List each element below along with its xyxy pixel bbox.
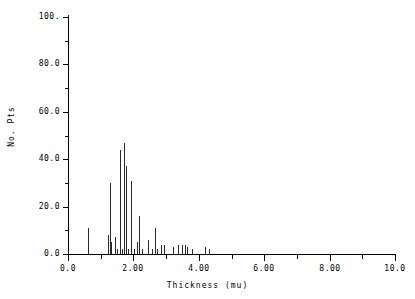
data-spike: [124, 143, 125, 254]
y-tick-label: 80.0: [22, 60, 60, 68]
x-tick-label: 4.00: [176, 264, 222, 273]
data-spike: [187, 247, 188, 254]
data-spike: [148, 240, 149, 254]
data-spike: [161, 245, 162, 254]
data-spike: [134, 249, 135, 254]
data-spike: [157, 249, 158, 254]
data-spike: [142, 249, 143, 254]
x-tick-major: [264, 255, 265, 261]
data-spike: [137, 242, 138, 254]
y-tick-label-text: 40.0: [28, 155, 60, 163]
y-tick-label: 40.0: [22, 155, 60, 163]
x-tick-major: [330, 255, 331, 261]
data-spike: [108, 235, 109, 254]
y-tick-label: 20.0: [22, 203, 60, 211]
y-tick-label-text: 0.0: [28, 250, 60, 258]
y-tick-label-text: 20.0: [28, 203, 60, 211]
data-spike: [192, 249, 193, 254]
data-spike: [205, 247, 206, 254]
x-tick-minor: [232, 255, 233, 259]
data-spike: [111, 242, 112, 254]
y-tick-label-text: 60.0: [28, 108, 60, 116]
x-tick-label: 10.0: [372, 264, 415, 273]
x-tick-major: [395, 255, 396, 261]
x-tick-minor: [101, 255, 102, 259]
x-tick-minor: [166, 255, 167, 259]
data-spike: [122, 249, 123, 254]
data-spike: [139, 216, 140, 254]
data-spike: [152, 249, 153, 254]
x-tick-major: [199, 255, 200, 261]
data-spike: [155, 228, 156, 254]
data-spike: [173, 247, 174, 254]
x-tick-label: 6.00: [241, 264, 287, 273]
data-spike: [185, 245, 186, 254]
y-tick-label: 100.: [22, 13, 60, 21]
y-axis-title: No. Pts: [7, 104, 16, 150]
y-tick-label: 0.0: [22, 250, 60, 258]
data-spike: [209, 249, 210, 254]
data-spike: [115, 237, 116, 254]
data-spike: [178, 245, 179, 254]
y-tick-label-text: 100.: [28, 13, 60, 21]
x-axis-title: Thickness (mu): [0, 281, 415, 290]
x-tick-label: 2.00: [110, 264, 156, 273]
data-spike: [88, 228, 89, 254]
y-tick-label: 60.0: [22, 108, 60, 116]
data-spike: [128, 249, 129, 254]
data-spike: [131, 181, 132, 254]
x-tick-label: 0.0: [45, 264, 91, 273]
data-spike: [117, 249, 118, 254]
x-tick-minor: [362, 255, 363, 259]
data-spike: [182, 245, 183, 254]
x-tick-major: [68, 255, 69, 261]
x-tick-minor: [297, 255, 298, 259]
data-spike: [126, 166, 127, 254]
x-tick-major: [133, 255, 134, 261]
plot-area: [68, 17, 395, 254]
data-spike: [120, 150, 121, 254]
y-tick-label-text: 80.0: [28, 60, 60, 68]
data-spike: [164, 245, 165, 254]
spike-histogram-figure: 0.020.040.060.080.0100. 0.02.004.006.008…: [0, 0, 415, 299]
x-tick-label: 8.00: [307, 264, 353, 273]
